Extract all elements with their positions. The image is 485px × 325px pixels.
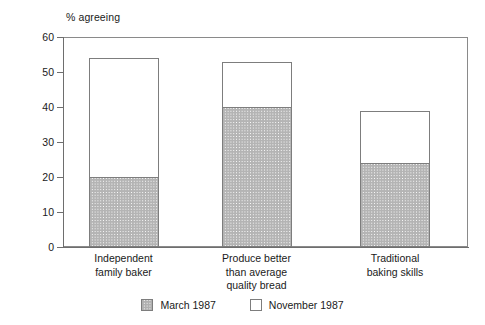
y-axis-line: [63, 37, 64, 248]
y-tick-mark-60: [57, 37, 63, 38]
white-swatch-icon: [250, 299, 262, 311]
y-tick-mark-30: [57, 142, 63, 143]
y-tick-mark-20: [57, 177, 63, 178]
cross-hatch-swatch-icon: [141, 299, 153, 311]
y-tick-mark-0: [57, 247, 63, 248]
bar-segment-november-1987-1: [222, 62, 292, 109]
y-tick-label-10: 10: [14, 207, 54, 217]
y-tick-label-20: 20: [14, 172, 54, 182]
y-tick-label-50: 50: [14, 67, 54, 77]
legend-label-march-1987: March 1987: [160, 299, 215, 311]
y-tick-mark-10: [57, 212, 63, 213]
x-axis-category-label-1: Produce better than average quality brea…: [197, 252, 317, 293]
bar-segment-november-1987-2: [360, 111, 430, 165]
y-tick-label-40: 40: [14, 102, 54, 112]
bar-segment-november-1987-0: [89, 58, 159, 178]
bar-segment-march-1987-2: [360, 163, 430, 247]
y-axis-title: % agreeing: [66, 11, 120, 23]
x-axis-category-label-0: Independent family baker: [64, 252, 184, 279]
bar-segment-march-1987-0: [89, 177, 159, 247]
stacked-bar-chart: % agreeing 0102030405060 Independent fam…: [0, 0, 485, 325]
x-axis-category-label-2: Traditional baking skills: [335, 252, 455, 279]
y-tick-label-30: 30: [14, 137, 54, 147]
x-axis-line: [63, 247, 469, 248]
chart-legend: March 1987 November 1987: [0, 299, 485, 311]
y-tick-label-60: 60: [14, 32, 54, 42]
y-tick-label-0: 0: [14, 242, 54, 252]
bar-segment-march-1987-1: [222, 107, 292, 247]
legend-item-march-1987: March 1987: [141, 299, 215, 311]
y-tick-mark-40: [57, 107, 63, 108]
legend-item-november-1987: November 1987: [250, 299, 344, 311]
y-tick-mark-50: [57, 72, 63, 73]
legend-label-november-1987: November 1987: [269, 299, 344, 311]
